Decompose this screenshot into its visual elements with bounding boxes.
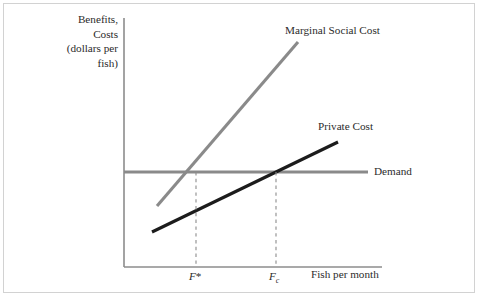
- x-axis-label: Fish per month: [311, 268, 379, 281]
- y-axis-label-line-2: Costs: [58, 27, 118, 42]
- x-tick-label-f-star: F*: [189, 270, 201, 282]
- x-tick-f-star-base: F: [189, 270, 196, 282]
- curve-label-private-cost: Private Cost: [318, 120, 373, 133]
- curve-label-marginal-social-cost: Marginal Social Cost: [285, 24, 380, 37]
- figure-canvas: Benefits, Costs (dollars per fish) Margi…: [0, 0, 479, 297]
- x-tick-f-c-base: F: [269, 270, 276, 282]
- x-tick-label-f-c: Fc: [269, 270, 279, 285]
- x-tick-f-c-subscript: c: [276, 276, 280, 285]
- y-axis-label-line-1: Benefits,: [58, 12, 118, 27]
- y-axis-label-line-3: (dollars per: [58, 41, 118, 56]
- curve-label-demand: Demand: [374, 165, 412, 178]
- curve-marginal-social-cost: [157, 42, 298, 206]
- curve-private-cost: [152, 142, 338, 232]
- y-axis-label-line-4: fish): [58, 56, 118, 71]
- y-axis-label: Benefits, Costs (dollars per fish): [58, 12, 118, 70]
- x-tick-f-star-superscript: *: [196, 270, 202, 282]
